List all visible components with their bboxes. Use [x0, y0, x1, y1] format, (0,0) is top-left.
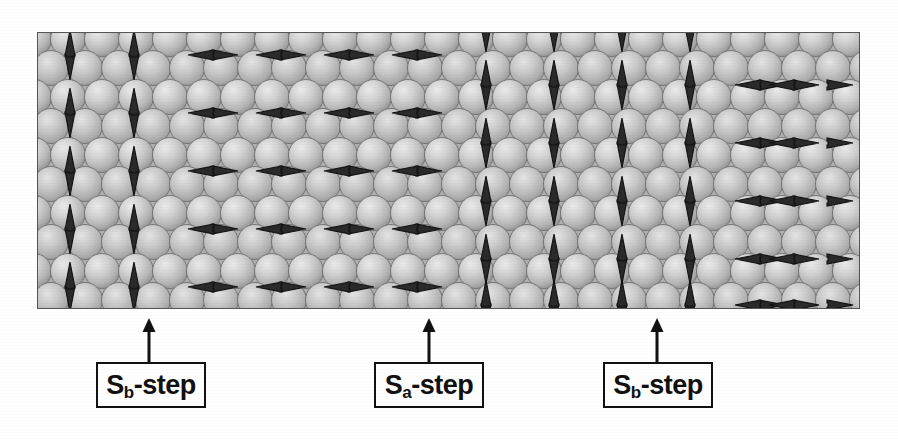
- lattice-diagram: [38, 33, 859, 308]
- sphere-lattice-layer: [38, 33, 859, 308]
- label-text-sa-step-center: Sa-step: [385, 372, 474, 399]
- pointer-arrow-right: [648, 318, 666, 364]
- label-text-sb-step-left: Sb-step: [106, 372, 195, 399]
- lattice-frame: [37, 32, 860, 309]
- label-text-sb-step-right: Sb-step: [613, 372, 702, 399]
- label-box-sa-step-center: Sa-step: [374, 362, 484, 408]
- pointer-arrow-center: [420, 318, 438, 364]
- figure-root: Sb-step Sa-step Sb-step: [0, 0, 898, 439]
- pointer-arrow-left: [140, 318, 158, 364]
- label-box-sb-step-left: Sb-step: [96, 362, 206, 408]
- label-box-sb-step-right: Sb-step: [603, 362, 713, 408]
